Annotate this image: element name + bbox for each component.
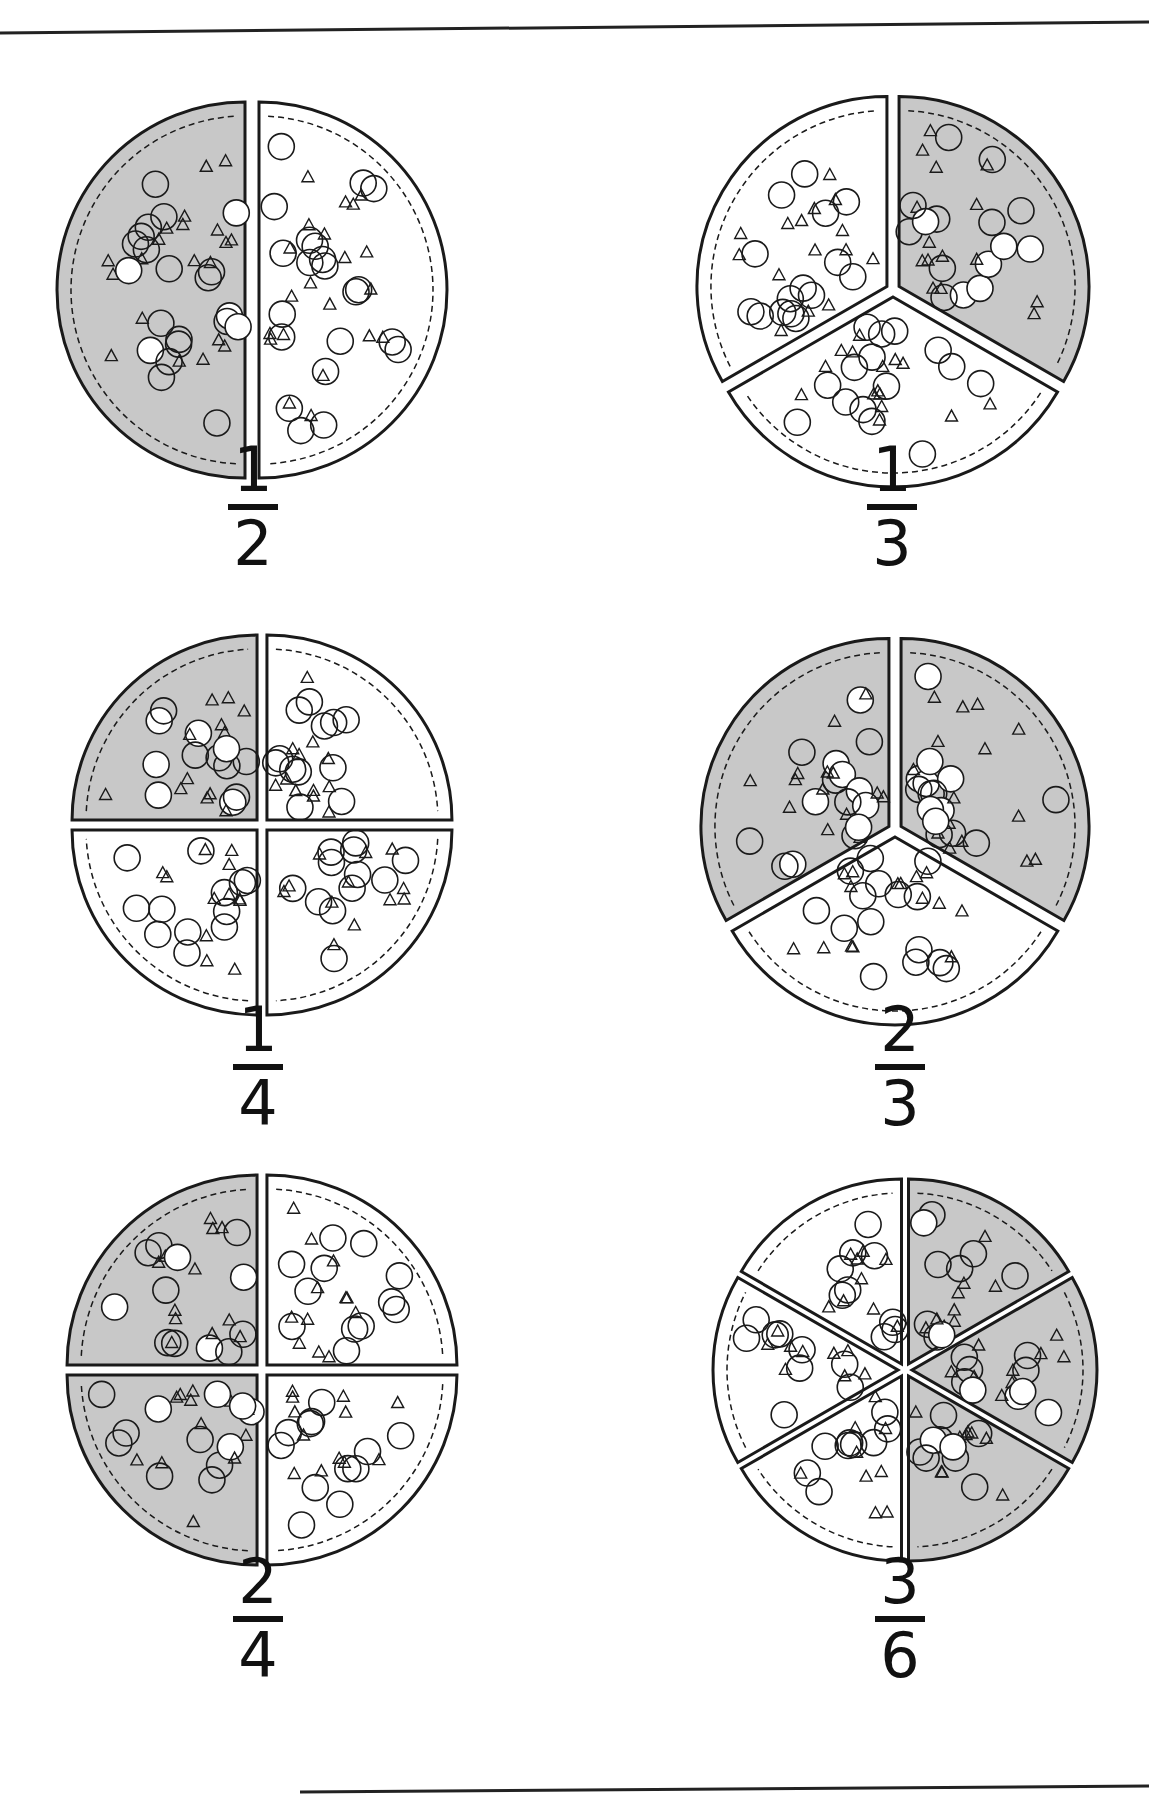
pepperoni-icon — [137, 337, 163, 363]
numerator: 2 — [198, 1552, 318, 1612]
pepperoni-icon — [802, 789, 828, 815]
numerator: 2 — [840, 1000, 960, 1060]
denominator: 6 — [840, 1626, 960, 1686]
denominator: 3 — [832, 514, 952, 574]
fraction-label-two-thirds: 23 — [840, 1000, 960, 1134]
denominator: 3 — [840, 1074, 960, 1134]
pizza-slice — [267, 1375, 457, 1565]
worksheet-canvas — [0, 0, 1149, 1795]
pepperoni-icon — [223, 200, 249, 226]
pepperoni-icon — [214, 736, 240, 762]
fraction-label-one-third: 13 — [832, 440, 952, 574]
pepperoni-icon — [217, 1434, 243, 1460]
pizza-two-fourths — [67, 1175, 457, 1565]
pepperoni-icon — [116, 258, 142, 284]
pizza-slice — [72, 830, 260, 1015]
top-rule — [0, 22, 1149, 33]
pepperoni-icon — [1010, 1379, 1036, 1405]
pizza-one-third — [697, 97, 1089, 488]
pepperoni-icon — [991, 233, 1017, 259]
pizza-slice — [267, 830, 452, 1015]
fraction-label-two-fourths: 24 — [198, 1552, 318, 1686]
pepperoni-icon — [911, 1210, 937, 1236]
fraction-label-one-fourth: 14 — [198, 1000, 318, 1134]
pizza-slice — [267, 1175, 457, 1365]
pizza-slice — [263, 635, 452, 820]
pepperoni-icon — [913, 209, 939, 235]
pepperoni-icon — [847, 687, 873, 713]
pizza-one-half — [57, 102, 447, 478]
pepperoni-icon — [915, 663, 941, 689]
pepperoni-icon — [929, 1322, 955, 1348]
pizza-slice-shaded — [57, 102, 251, 478]
numerator: 1 — [198, 1000, 318, 1060]
pizza-two-thirds — [701, 639, 1089, 1026]
pizza-slice — [259, 102, 447, 478]
pepperoni-icon — [102, 1294, 128, 1320]
pepperoni-icon — [1035, 1400, 1061, 1426]
pepperoni-icon — [923, 808, 949, 834]
pepperoni-icon — [145, 782, 171, 808]
numerator: 1 — [832, 440, 952, 500]
fraction-label-three-sixths: 36 — [840, 1552, 960, 1686]
bottom-rule — [300, 1786, 1149, 1792]
pepperoni-icon — [165, 1244, 191, 1270]
pepperoni-icon — [230, 1393, 256, 1419]
numerator: 1 — [193, 440, 313, 500]
numerator: 3 — [840, 1552, 960, 1612]
pizza-three-sixths — [713, 1179, 1097, 1561]
fraction-label-one-half: 12 — [193, 440, 313, 574]
pizza-slice-shaded — [72, 635, 259, 820]
pepperoni-icon — [917, 749, 943, 775]
pepperoni-icon — [225, 314, 251, 340]
denominator: 4 — [198, 1074, 318, 1134]
pizza-one-fourth — [72, 635, 452, 1015]
pepperoni-icon — [145, 1396, 171, 1422]
pepperoni-icon — [231, 1264, 257, 1290]
pepperoni-icon — [204, 1381, 230, 1407]
pepperoni-icon — [940, 1434, 966, 1460]
denominator: 2 — [193, 514, 313, 574]
denominator: 4 — [198, 1626, 318, 1686]
pepperoni-icon — [846, 814, 872, 840]
pepperoni-icon — [960, 1377, 986, 1403]
pepperoni-icon — [143, 751, 169, 777]
pizza-slice-shaded — [67, 1175, 257, 1365]
pepperoni-icon — [967, 275, 993, 301]
pepperoni-icon — [1017, 236, 1043, 262]
pepperoni-icon — [938, 766, 964, 792]
pizza-slice-shaded — [67, 1375, 264, 1565]
